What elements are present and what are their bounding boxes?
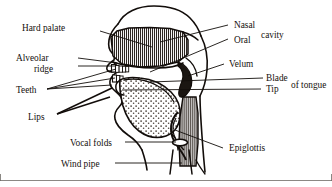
pharynx-hatched-column [179, 97, 198, 166]
label-alveolar-line2: ridge [34, 64, 53, 74]
label-of-tongue: of tongue [291, 80, 326, 90]
pharynx-region [179, 97, 198, 166]
leader-teeth-a [47, 69, 116, 89]
label-blade: Blade [266, 73, 288, 83]
leader-lips-a [57, 88, 112, 114]
leader-alveolar-a [78, 58, 117, 63]
vocal-tract-diagram: Hard palate Alveolar ridge Teeth Lips Vo… [0, 0, 332, 187]
label-wind-pipe: Wind pipe [61, 159, 100, 169]
neck-front-outline [142, 150, 147, 170]
diagram-canvas: Hard palate Alveolar ridge Teeth Lips Vo… [0, 0, 332, 187]
label-nasal: Nasal [234, 20, 256, 30]
vocal-folds-glottis [173, 139, 188, 145]
leader-lips-b [57, 97, 110, 114]
label-velum: Velum [229, 59, 254, 69]
label-cavity: cavity [261, 30, 284, 40]
velum-flap [178, 62, 192, 97]
label-alveolar-line1: Alveolar [16, 53, 49, 63]
label-hard-palate: Hard palate [22, 23, 65, 33]
label-oral: Oral [234, 35, 251, 45]
label-vocal-folds: Vocal folds [70, 138, 112, 148]
label-teeth: Teeth [16, 85, 37, 95]
nasal-cavity-region [111, 28, 198, 68]
neck-rear-outline [200, 96, 205, 172]
label-epiglottis: Epiglottis [229, 143, 266, 153]
skull-rear-outline [200, 36, 207, 96]
vocal-folds-region [173, 139, 188, 145]
label-lips: Lips [28, 112, 45, 122]
trachea-front-wall [170, 150, 173, 174]
label-tip: Tip [266, 84, 279, 94]
